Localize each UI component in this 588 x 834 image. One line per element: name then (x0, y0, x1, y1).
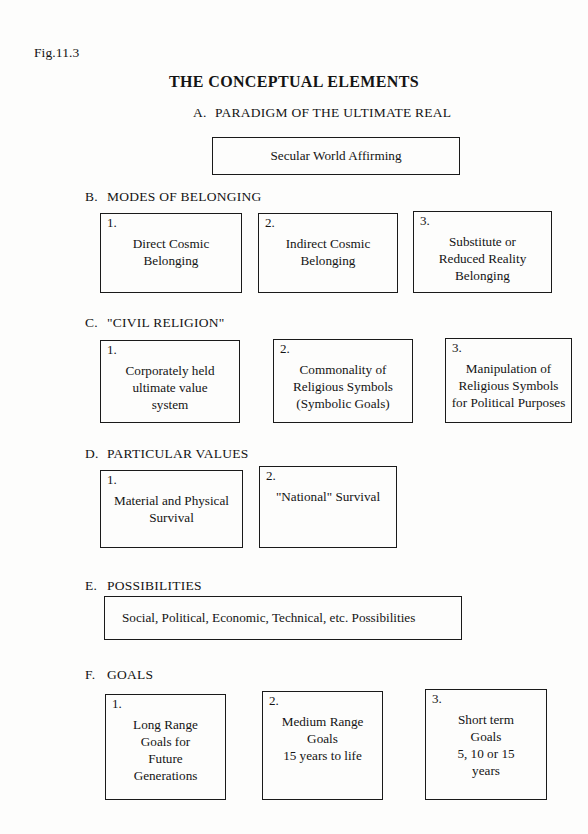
box-b-1: 1. Direct CosmicBelonging (100, 213, 242, 293)
section-letter-a: A. (193, 105, 215, 121)
box-c-1-text: Corporately heldultimate valuesystem (104, 363, 236, 414)
box-b-3-number: 3. (420, 214, 430, 228)
document-page: Fig.11.3 THE CONCEPTUAL ELEMENTS A.PARAD… (0, 0, 588, 834)
section-heading-c: C."CIVIL RELIGION" (85, 315, 225, 331)
box-c-3-text: Manipulation ofReligious Symbolsfor Poli… (449, 361, 568, 412)
section-letter-b: B. (85, 189, 107, 205)
section-letter-f: F. (85, 667, 107, 683)
box-f-2-number: 2. (269, 694, 279, 708)
box-d-1: 1. Material and PhysicalSurvival (100, 470, 243, 548)
section-heading-a: A.PARADIGM OF THE ULTIMATE REAL (193, 105, 451, 121)
section-title-d: PARTICULAR VALUES (107, 446, 249, 461)
box-c-1: 1. Corporately heldultimate valuesystem (100, 340, 240, 423)
box-b-1-number: 1. (107, 216, 117, 230)
section-title-b: MODES OF BELONGING (107, 189, 262, 204)
section-letter-d: D. (85, 446, 107, 462)
section-title-e: POSSIBILITIES (107, 578, 202, 593)
box-e-1-text: Social, Political, Economic, Technical, … (122, 610, 415, 627)
box-d-1-number: 1. (107, 473, 117, 487)
box-b-2: 2. Indirect CosmicBelonging (258, 213, 398, 293)
section-heading-b: B.MODES OF BELONGING (85, 189, 262, 205)
box-c-1-number: 1. (107, 343, 117, 357)
box-f-3-number: 3. (432, 692, 442, 706)
box-f-3: 3. Short termGoals5, 10 or 15years (425, 689, 547, 800)
box-f-3-text: Short termGoals5, 10 or 15years (429, 712, 543, 780)
section-title-a: PARADIGM OF THE ULTIMATE REAL (215, 105, 451, 120)
box-c-2: 2. Commonality ofReligious Symbols(Symbo… (273, 339, 413, 423)
box-e-1: Social, Political, Economic, Technical, … (104, 596, 462, 640)
box-c-2-text: Commonality ofReligious Symbols(Symbolic… (277, 362, 409, 413)
box-a-1-text: Secular World Affirming (270, 148, 401, 165)
box-c-3: 3. Manipulation ofReligious Symbolsfor P… (445, 338, 572, 423)
section-heading-e: E.POSSIBILITIES (85, 578, 202, 594)
box-c-2-number: 2. (280, 342, 290, 356)
box-f-1-text: Long RangeGoals forFutureGenerations (109, 717, 222, 785)
section-letter-c: C. (85, 315, 107, 331)
box-f-1-number: 1. (112, 697, 122, 711)
box-f-2-text: Medium RangeGoals15 years to life (266, 714, 379, 765)
box-d-2-text: "National" Survival (263, 489, 393, 506)
box-b-2-number: 2. (265, 216, 275, 230)
section-letter-e: E. (85, 578, 107, 594)
box-a-1: Secular World Affirming (212, 137, 460, 175)
box-d-1-text: Material and PhysicalSurvival (104, 493, 239, 527)
figure-label: Fig.11.3 (34, 45, 79, 61)
box-d-2: 2. "National" Survival (259, 466, 397, 548)
box-d-2-number: 2. (266, 469, 276, 483)
box-c-3-number: 3. (452, 341, 462, 355)
page-title: THE CONCEPTUAL ELEMENTS (0, 73, 588, 91)
section-title-c: "CIVIL RELIGION" (107, 315, 225, 330)
box-b-3: 3. Substitute orReduced RealityBelonging (413, 211, 552, 293)
section-title-f: GOALS (107, 667, 153, 682)
box-b-2-text: Indirect CosmicBelonging (262, 236, 394, 270)
box-f-1: 1. Long RangeGoals forFutureGenerations (105, 694, 226, 800)
box-f-2: 2. Medium RangeGoals15 years to life (262, 691, 383, 800)
section-heading-f: F.GOALS (85, 667, 153, 683)
section-heading-d: D.PARTICULAR VALUES (85, 446, 249, 462)
box-b-3-text: Substitute orReduced RealityBelonging (417, 234, 548, 285)
box-b-1-text: Direct CosmicBelonging (104, 236, 238, 270)
